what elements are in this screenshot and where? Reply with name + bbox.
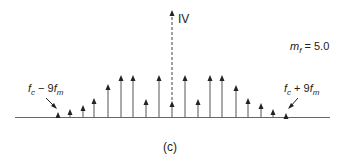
carrier-arrow-head-icon: [170, 10, 175, 16]
arrow-head-icon: [92, 98, 97, 104]
spectral-line: [131, 75, 136, 117]
arrow-head-icon: [106, 84, 111, 90]
arrow-head-icon: [208, 75, 213, 81]
spectral-line: [234, 85, 239, 117]
mf-op: =: [301, 40, 314, 52]
carrier-label: IV: [178, 12, 189, 26]
spectral-line: [56, 112, 61, 118]
figure-caption: (c): [163, 140, 177, 154]
arrow-head-icon: [131, 75, 136, 81]
right-pointer-arrow-icon: [288, 98, 298, 109]
lower-f2sub: m: [57, 88, 64, 97]
arrow-head-icon: [170, 101, 175, 107]
spectral-line: [246, 98, 251, 117]
spectral-line: [196, 99, 201, 117]
arrow-head-icon: [234, 85, 239, 91]
arrow-head-icon: [259, 103, 264, 109]
arrow-head-icon: [81, 105, 86, 111]
spectral-line: [144, 99, 149, 117]
spectral-line: [284, 113, 289, 119]
spectral-line: [157, 75, 162, 117]
arrow-head-icon: [271, 109, 276, 115]
spectral-line: [220, 75, 225, 117]
arrow-head-icon: [183, 75, 188, 81]
spectral-line: [81, 105, 86, 117]
left-pointer-arrow-icon: [46, 98, 57, 109]
spectral-line: [259, 103, 264, 117]
mf-symbol: m: [290, 40, 299, 52]
arrow-head-icon: [196, 99, 201, 105]
arrow-head-icon: [220, 75, 225, 81]
spectral-line: [92, 98, 97, 117]
arrow-head-icon: [284, 113, 289, 119]
arrow-head-icon: [68, 109, 73, 115]
spectral-line: [183, 75, 188, 117]
arrow-head-icon: [144, 99, 149, 105]
modulation-index-label: mf = 5.0: [290, 40, 329, 55]
upper-mid: + 9: [291, 82, 310, 94]
upper-edge-label: fc + 9fm: [284, 82, 319, 97]
arrow-head-icon: [157, 75, 162, 81]
spectral-line: [271, 109, 276, 117]
lower-edge-label: fc − 9fm: [28, 82, 63, 97]
spectral-line: [68, 109, 73, 117]
mf-value: 5.0: [314, 40, 329, 52]
upper-f2sub: m: [313, 88, 320, 97]
arrow-head-icon: [246, 98, 251, 104]
spectral-line: [106, 84, 111, 117]
spectral-line: [170, 101, 175, 117]
spectral-line: [119, 75, 124, 117]
lower-mid: − 9: [35, 82, 54, 94]
arrow-head-icon: [56, 112, 61, 118]
spectral-line: [208, 75, 213, 117]
arrow-head-icon: [119, 75, 124, 81]
